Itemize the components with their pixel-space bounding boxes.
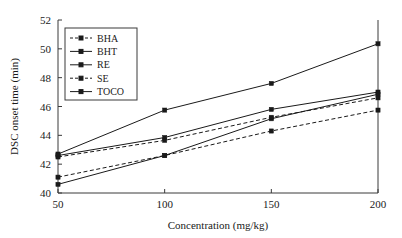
chart-legend[interactable]: BHABHTRESETOCO xyxy=(65,28,137,100)
legend-label-toco: TOCO xyxy=(97,86,124,97)
y-tick-label: 44 xyxy=(40,129,52,141)
data-point-marker xyxy=(376,108,380,112)
legend-swatch-marker-toco xyxy=(79,90,83,94)
series-line-se xyxy=(58,98,378,157)
x-tick-label: 200 xyxy=(370,198,387,210)
legend-swatch-marker-bha xyxy=(79,36,83,40)
series-line-re xyxy=(58,94,378,184)
line-chart-canvas: 40424446485052 50100150200 Concentration… xyxy=(0,0,402,238)
x-tick-label: 50 xyxy=(53,198,65,210)
data-point-marker xyxy=(163,153,167,157)
x-tick-label: 100 xyxy=(156,198,173,210)
x-axis-title: Concentration (mg/kg) xyxy=(168,219,269,232)
data-point-marker xyxy=(376,42,380,46)
data-point-marker xyxy=(56,152,60,156)
legend-label-se: SE xyxy=(97,73,109,84)
chart-figure: 40424446485052 50100150200 Concentration… xyxy=(0,0,402,238)
series-bha xyxy=(56,108,380,179)
data-point-marker xyxy=(56,182,60,186)
y-tick-label: 46 xyxy=(40,101,52,113)
legend-label-bha: BHA xyxy=(97,33,119,44)
data-point-marker xyxy=(56,175,60,179)
y-axis-title: DSC onset time (min) xyxy=(8,58,21,155)
y-tick-label: 48 xyxy=(40,72,52,84)
data-point-marker xyxy=(269,81,273,85)
x-axis-ticks: 50100150200 xyxy=(53,189,387,210)
legend-swatch-marker-se xyxy=(79,76,83,80)
data-point-marker xyxy=(269,107,273,111)
data-point-marker xyxy=(269,115,273,119)
series-line-bht xyxy=(58,92,378,155)
x-tick-label: 150 xyxy=(263,198,280,210)
y-tick-label: 50 xyxy=(40,43,52,55)
y-axis-ticks: 40424446485052 xyxy=(40,14,62,199)
series-line-bha xyxy=(58,110,378,177)
legend-swatch-marker-bht xyxy=(79,49,83,53)
legend-swatch-marker-re xyxy=(79,63,83,67)
data-point-marker xyxy=(163,108,167,112)
series-re xyxy=(56,92,380,186)
y-tick-label: 40 xyxy=(40,187,52,199)
legend-label-bht: BHT xyxy=(97,46,117,57)
data-point-marker xyxy=(269,129,273,133)
y-tick-label: 52 xyxy=(40,14,51,26)
data-point-marker xyxy=(376,96,380,100)
data-point-marker xyxy=(163,138,167,142)
legend-label-re: RE xyxy=(97,59,110,70)
y-tick-label: 42 xyxy=(40,158,51,170)
